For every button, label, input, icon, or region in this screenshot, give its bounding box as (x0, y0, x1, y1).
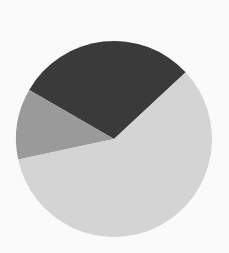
pie-chart (0, 0, 229, 253)
pie-chart-svg (0, 0, 229, 253)
pie-slices (16, 41, 212, 237)
